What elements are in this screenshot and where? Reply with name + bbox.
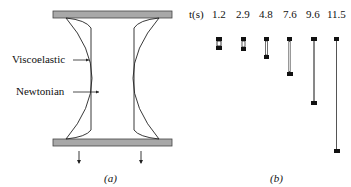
caption-b: (b) [270, 172, 283, 184]
filament-4.8 [264, 37, 269, 59]
bottom-plate [53, 139, 172, 146]
filament-11.5 [334, 37, 340, 153]
viscoelastic-profile-left [66, 18, 91, 139]
time-axis-label: t(s) [189, 8, 204, 20]
filament-1.2 [216, 37, 222, 50]
time-3: 4.8 [259, 8, 273, 20]
filament-9.6 [311, 37, 317, 105]
viscoelastic-label: Viscoelastic [12, 53, 65, 65]
newtonian-profile-right [133, 18, 159, 139]
time-1: 1.2 [212, 8, 226, 20]
viscoelastic-profile-right [134, 18, 159, 139]
newtonian-label: Newtonian [16, 85, 64, 97]
arrowhead-down-icon [77, 160, 81, 164]
time-6: 11.5 [327, 8, 346, 20]
arrowhead-icon [86, 59, 89, 62]
time-4: 7.6 [283, 8, 297, 20]
caption-a: (a) [104, 172, 117, 184]
time-2: 2.9 [236, 8, 250, 20]
arrowhead-down-icon [139, 160, 143, 164]
filament-7.6 [287, 37, 293, 76]
top-plate [53, 11, 172, 18]
newtonian-profile-left [66, 18, 92, 139]
time-5: 9.6 [306, 8, 320, 20]
filament-2.9 [241, 37, 246, 51]
arrowhead-icon [96, 91, 99, 94]
